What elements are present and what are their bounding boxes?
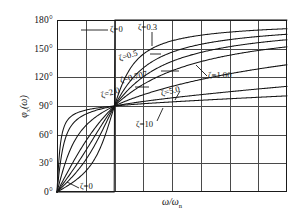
y-tick-120: 120°: [34, 73, 53, 83]
y-tick-150: 150°: [34, 45, 53, 55]
plot-frame-border: [57, 20, 287, 192]
y-tick-0: 0°: [44, 188, 53, 198]
y-tick-90: 90°: [39, 102, 53, 112]
y-tick-180: 180°: [34, 16, 53, 26]
plot-area: ζ=0 ζ=0.3 ζ=0.5 ζ=0.707 ζ=1.00 ζ=2.0 ζ=5…: [57, 20, 287, 192]
y-tick-60: 60°: [39, 131, 53, 141]
x-axis-title: ω/ωn: [57, 196, 287, 209]
y-axis-title: φx(ω): [18, 77, 31, 137]
chart-figure: 180° 150° 120° 90° 60° 30° 0° φx(ω) ω/ωn: [0, 0, 304, 221]
y-tick-30: 30°: [39, 159, 53, 169]
